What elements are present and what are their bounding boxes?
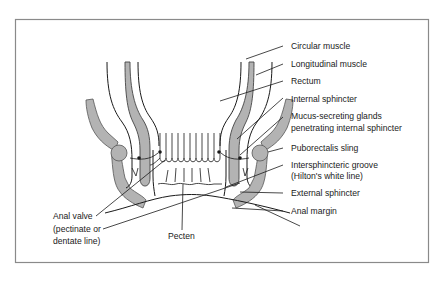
label-anal-valve-line2: (pectinate or	[53, 224, 101, 234]
label-internal-sphincter: Internal sphincter	[291, 94, 357, 104]
label-anal-margin: Anal margin	[291, 206, 337, 216]
label-anal-valve-line1: Anal valve	[53, 211, 93, 221]
anal-columns	[160, 133, 220, 162]
label-anal-valve-line3: dentate line)	[53, 236, 100, 246]
label-intersphincteric-groove-line1: Intersphincteric groove	[291, 160, 378, 170]
label-pecten: Pecten	[168, 231, 195, 241]
puborectalis-right	[252, 145, 268, 161]
label-external-sphincter: External sphincter	[291, 188, 360, 198]
label-intersphincteric-groove-line2: (Hilton's white line)	[291, 171, 363, 181]
internal-sphincter-left	[125, 62, 150, 186]
pecten-lines	[166, 168, 210, 182]
label-mucus-glands-line2: penetrating internal sphincter	[291, 123, 402, 133]
internal-sphincter-right	[229, 62, 254, 186]
label-puborectalis-sling: Puborectalis sling	[291, 143, 358, 153]
label-circular-muscle: Circular muscle	[291, 41, 350, 51]
label-longitudinal-muscle: Longitudinal muscle	[291, 59, 367, 69]
puborectalis-left	[111, 145, 127, 161]
label-rectum: Rectum	[291, 76, 321, 86]
label-mucus-glands-line1: Mucus-secreting glands	[291, 111, 382, 121]
